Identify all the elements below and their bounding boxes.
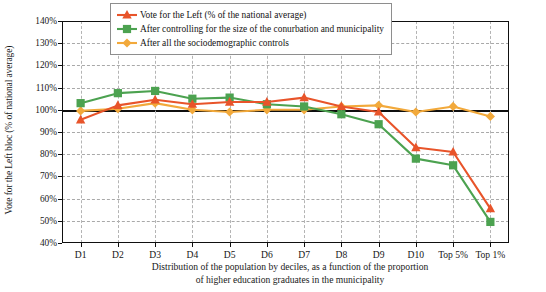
data-point-marker	[375, 120, 383, 128]
x-axis-tick-mark	[379, 243, 380, 247]
legend-item[interactable]: Vote for the Left (% of the national ave…	[116, 8, 384, 22]
y-axis-tick-label: 140%	[35, 16, 57, 26]
x-axis-title-line1: Distribution of the population by decile…	[152, 261, 429, 272]
y-axis-tick-label: 110%	[36, 83, 57, 93]
y-axis-tick-label: 90%	[40, 127, 57, 137]
data-point-marker	[300, 102, 308, 110]
y-axis-tick-label: 80%	[40, 149, 57, 159]
data-point-marker	[151, 87, 159, 95]
legend-item[interactable]: After controlling for the size of the co…	[116, 22, 384, 36]
x-axis-tick-mark	[304, 243, 305, 247]
x-axis-tick-label-d7: D7	[298, 249, 310, 260]
x-axis-tick-mark	[118, 243, 119, 247]
x-axis-tick-mark	[453, 243, 454, 247]
series-line	[81, 98, 491, 209]
x-axis-tick-mark	[192, 243, 193, 247]
chart-figure: Vote for the Left bloc (% of national av…	[0, 0, 546, 292]
x-axis-tick-label-d2: D2	[112, 249, 124, 260]
x-axis-tick-label-d1: D1	[75, 249, 87, 260]
data-point-marker	[77, 99, 85, 107]
data-point-marker	[486, 112, 495, 121]
x-axis-tick-label-d9: D9	[373, 249, 385, 260]
y-axis-tick-label: 40%	[40, 238, 57, 248]
y-axis-tick-label: 100%	[35, 105, 57, 115]
x-axis-title: Distribution of the population by decile…	[40, 260, 540, 286]
legend-swatch-diamond-icon	[116, 37, 138, 49]
x-axis-tick-label-d8: D8	[336, 249, 348, 260]
x-axis-tick-mark	[155, 243, 156, 247]
y-axis-tick-label: 50%	[40, 216, 57, 226]
x-axis-tick-label-d5: D5	[224, 249, 236, 260]
x-axis-tick-mark	[416, 243, 417, 247]
data-point-marker	[150, 95, 159, 104]
legend-item-label: Vote for the Left (% of the national ave…	[138, 10, 306, 20]
x-axis-tick-mark	[230, 243, 231, 247]
x-axis-tick-label-top-1: Top 1%	[475, 249, 505, 260]
data-point-marker	[299, 93, 308, 102]
x-axis-tick-label-d4: D4	[187, 249, 199, 260]
y-axis-tick-label: 130%	[35, 38, 57, 48]
data-point-marker	[114, 89, 122, 97]
data-point-marker	[411, 107, 420, 116]
legend-item[interactable]: After all the sociodemographic controls	[116, 36, 384, 50]
legend-item-label: After all the sociodemographic controls	[138, 38, 289, 48]
x-axis-tick-label-d10: D10	[408, 249, 425, 260]
y-axis-tick-mark	[58, 243, 62, 244]
y-axis-tick-label: 60%	[40, 194, 57, 204]
x-axis-tick-mark	[267, 243, 268, 247]
y-axis-title: Vote for the Left bloc (% of national av…	[2, 10, 16, 250]
x-axis-tick-label-top-5: Top 5%	[438, 249, 468, 260]
legend-swatch-square-icon	[116, 23, 138, 35]
data-point-marker	[225, 107, 234, 116]
y-axis-tick-label: 120%	[35, 60, 57, 70]
chart-legend: Vote for the Left (% of the national ave…	[110, 3, 392, 55]
legend-swatch-triangle-icon	[116, 9, 138, 21]
data-point-marker	[449, 161, 457, 169]
data-point-marker	[76, 106, 85, 115]
x-axis-tick-label-d3: D3	[149, 249, 161, 260]
y-axis-tick-label: 70%	[40, 171, 57, 181]
x-axis-tick-mark	[341, 243, 342, 247]
x-axis-tick-mark	[490, 243, 491, 247]
legend-item-label: After controlling for the size of the co…	[138, 24, 384, 34]
data-point-marker	[412, 155, 420, 163]
data-point-marker	[337, 110, 345, 118]
x-axis-title-line2: of higher education graduates in the mun…	[40, 273, 540, 286]
data-point-marker	[449, 102, 458, 111]
x-axis-tick-label-d6: D6	[261, 249, 273, 260]
data-point-marker	[486, 218, 494, 226]
x-axis-tick-mark	[81, 243, 82, 247]
